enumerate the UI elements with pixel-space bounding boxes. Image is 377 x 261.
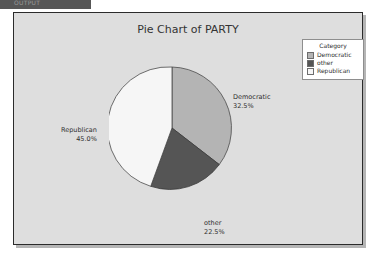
pie-label-democratic-name: Democratic (233, 93, 270, 101)
pie-label-democratic-percent: 32.5% (233, 102, 270, 111)
legend-title: Category (307, 43, 359, 50)
pie-label-other: other 22.5% (204, 219, 225, 238)
legend-swatch-democratic (307, 52, 314, 59)
legend-swatch-republican (307, 68, 314, 75)
legend-item-republican[interactable]: Republican (307, 68, 359, 75)
chart-legend: Category Democratic other Republican (302, 39, 364, 80)
pie-label-democratic: Democratic 32.5% (233, 93, 270, 112)
legend-swatch-other (307, 60, 314, 67)
chart-title: Pie Chart of PARTY (14, 23, 362, 36)
pie-svg (109, 65, 235, 191)
legend-item-other[interactable]: other (307, 60, 359, 67)
legend-label-democratic: Democratic (317, 52, 352, 59)
legend-label-other: other (317, 60, 333, 67)
output-header-strip: OUTPUT (0, 0, 91, 9)
pie-label-other-percent: 22.5% (204, 228, 225, 237)
pie-chart (109, 65, 235, 191)
pie-label-republican-name: Republican (61, 126, 97, 134)
pie-label-other-name: other (204, 219, 221, 227)
legend-item-democratic[interactable]: Democratic (307, 52, 359, 59)
chart-panel: Pie Chart of PARTY Democratic 32.5% Repu… (13, 12, 363, 245)
pie-label-republican-percent: 45.0% (61, 135, 97, 144)
legend-label-republican: Republican (317, 68, 350, 75)
output-header-label: OUTPUT (14, 0, 40, 6)
pie-label-republican: Republican 45.0% (61, 126, 97, 145)
